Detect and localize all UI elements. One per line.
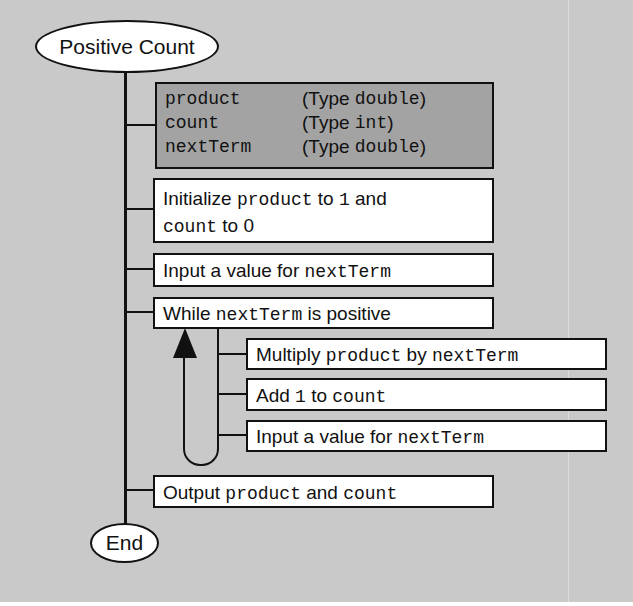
code-nextTerm: nextTerm: [305, 262, 391, 282]
code-product: product: [237, 190, 313, 210]
declaration-row: product (Type double): [165, 87, 492, 111]
initialize-line-2: count to 0: [163, 213, 492, 240]
text: Initialize: [163, 188, 237, 209]
multiply-step: Multiply product by nextTerm: [246, 338, 607, 370]
end-label: End: [106, 531, 143, 555]
start-label: Positive Count: [59, 35, 194, 59]
initialize-line-1: Initialize product to 1 and: [163, 186, 492, 213]
code-literal: 1: [295, 387, 306, 407]
output-step: Output product and count: [153, 475, 494, 508]
code-nextTerm: nextTerm: [432, 346, 518, 366]
text: Output: [163, 482, 225, 503]
var-type-prefix: (Type: [302, 87, 355, 111]
input-step-2: Input a value for nextTerm: [246, 420, 607, 452]
text: and: [350, 188, 387, 209]
connector-output: [124, 489, 154, 491]
code-count: count: [332, 387, 386, 407]
text: is positive: [302, 303, 391, 324]
declarations-box: product (Type double) count (Type int) n…: [155, 82, 494, 169]
text: to: [306, 385, 332, 406]
declaration-row: count (Type int): [165, 111, 492, 135]
code-count: count: [163, 217, 217, 237]
connector-input2: [217, 434, 246, 436]
connector-input1: [124, 268, 154, 270]
connector-declarations: [124, 124, 156, 126]
var-type-suffix: ): [420, 87, 426, 111]
connector-multiply: [217, 353, 246, 355]
text: to 0: [217, 215, 254, 236]
code-nextTerm: nextTerm: [216, 305, 302, 325]
text: Input a value for: [256, 426, 398, 447]
code-product: product: [225, 484, 301, 504]
end-terminal: End: [90, 523, 159, 563]
text: While: [163, 303, 216, 324]
text: Input a value for: [163, 260, 305, 281]
connector-while: [124, 311, 154, 313]
loop-back-arrow-icon: [173, 328, 197, 358]
var-type-prefix: (Type: [302, 135, 355, 159]
text: by: [401, 344, 432, 365]
main-spine-line: [124, 71, 127, 525]
input-step-1: Input a value for nextTerm: [153, 253, 494, 287]
var-type: int: [355, 111, 387, 135]
text: Multiply: [256, 344, 326, 365]
diagram-canvas: Positive Count product (Type double) cou…: [0, 0, 633, 602]
var-type: double: [355, 135, 420, 159]
while-step: While nextTerm is positive: [153, 297, 494, 329]
code-product: product: [326, 346, 402, 366]
var-name: nextTerm: [165, 135, 302, 159]
code-nextTerm: nextTerm: [398, 428, 484, 448]
var-name: product: [165, 87, 302, 111]
var-type-suffix: ): [420, 135, 426, 159]
var-type-prefix: (Type: [302, 111, 355, 135]
add-step: Add 1 to count: [246, 378, 607, 411]
text: to: [313, 188, 339, 209]
loop-return-path: [183, 356, 219, 466]
text: Add: [256, 385, 295, 406]
declaration-row: nextTerm (Type double): [165, 135, 492, 159]
code-literal: 1: [339, 190, 350, 210]
connector-initialize: [124, 208, 154, 210]
var-type: double: [355, 87, 420, 111]
connector-add: [217, 393, 246, 395]
start-terminal: Positive Count: [35, 20, 219, 73]
var-name: count: [165, 111, 302, 135]
scan-artifact-line: [568, 0, 569, 602]
code-count: count: [343, 484, 397, 504]
var-type-suffix: ): [387, 111, 393, 135]
initialize-step: Initialize product to 1 and count to 0: [153, 178, 494, 243]
text: and: [301, 482, 343, 503]
